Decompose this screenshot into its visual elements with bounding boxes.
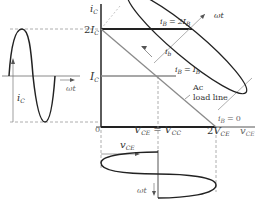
ib-small-label: ib: [165, 47, 172, 57]
ib-2IB-label: iB=2IB: [160, 17, 191, 27]
ac-load-line-pointer: [185, 95, 190, 99]
ic-up-arrow-icon: [11, 58, 15, 64]
omega-t-left-arrow-icon: [70, 78, 75, 82]
ic-waveform-label: iC: [17, 92, 25, 104]
ac-load-line: [130, 4, 253, 106]
omega-t-left-label: ωt: [66, 84, 77, 93]
ib-IB-label: iB=IB: [175, 65, 201, 75]
origin-label: 0: [95, 125, 100, 134]
ic-axis-label: iC: [90, 3, 98, 15]
dashed-ellipse-guide: [101, 6, 120, 29]
dc-load-line: [101, 29, 216, 127]
omega-t-top-label: ωt: [214, 11, 225, 20]
omega-t-bottom-label: ωt: [137, 186, 148, 195]
ac-load-line-diagram: iC 2IC IC 0 VCE=VCC 2VCE vCE iB=2IB iB=I…: [0, 0, 257, 206]
ib-vector: [142, 47, 152, 57]
omega-t-down-arrow-icon: [152, 191, 156, 196]
vce-waveform-label: vCE: [120, 139, 135, 151]
vce-equals-vcc-label: VCE=VCC: [134, 124, 181, 136]
two-ic-tick-label: 2IC: [84, 24, 99, 36]
ac-load-line-label-1: Ac: [192, 83, 204, 92]
ib-0-label: iB=0: [218, 114, 241, 124]
ac-load-line-label-2: load line: [193, 93, 228, 102]
ib-ellipse-waveform: [119, 0, 255, 103]
ic-tick-label: IC: [89, 70, 99, 83]
